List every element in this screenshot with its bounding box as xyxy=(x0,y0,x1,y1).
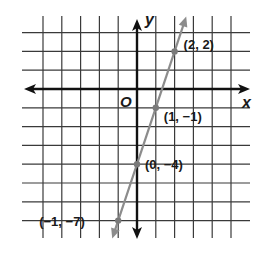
x-axis-label: x xyxy=(241,94,252,111)
coordinate-plane: y x O (−1, −7)(0, −4)(1, −1)(2, 2) xyxy=(0,0,269,253)
origin-label: O xyxy=(120,93,132,110)
data-point xyxy=(134,161,140,167)
line-arrow-up-icon xyxy=(179,17,188,28)
axes: y x O xyxy=(24,11,252,239)
point-labels: (−1, −7)(0, −4)(1, −1)(2, 2) xyxy=(39,37,214,228)
point-label: (−1, −7) xyxy=(39,214,85,229)
data-point xyxy=(153,105,159,111)
point-label: (2, 2) xyxy=(184,37,214,52)
line-series xyxy=(111,17,187,239)
point-label: (1, −1) xyxy=(164,109,202,124)
point-label: (0, −4) xyxy=(145,157,183,172)
y-axis-label: y xyxy=(144,11,155,28)
data-point xyxy=(115,217,121,223)
data-point xyxy=(171,48,177,54)
